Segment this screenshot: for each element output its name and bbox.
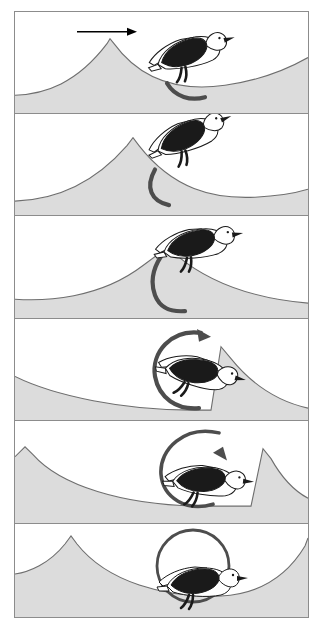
rotation-arrowhead — [213, 447, 227, 461]
panel-5 — [15, 421, 308, 524]
bird-beak — [237, 576, 248, 581]
bird-tail — [162, 480, 174, 486]
panel-3-scene — [15, 216, 308, 318]
bird-tail — [154, 252, 167, 259]
wave-direction-arrow — [77, 28, 137, 36]
panel-3 — [15, 216, 308, 319]
panel-1 — [15, 12, 308, 114]
bird-legs — [174, 67, 189, 83]
bird-eye — [232, 574, 234, 576]
figure-root — [0, 0, 325, 628]
panel-6-scene — [15, 524, 308, 617]
panel-4 — [15, 319, 308, 421]
panel-5-scene — [15, 421, 308, 523]
panel-1-scene — [15, 12, 308, 113]
figure-frame — [14, 11, 309, 618]
rotation-arrowhead — [197, 329, 211, 342]
panel-4-scene — [15, 319, 308, 420]
bird-tail — [157, 586, 169, 591]
panel-2 — [15, 114, 308, 216]
panel-2-scene — [15, 114, 308, 215]
panel-6 — [15, 524, 308, 617]
bird-beak — [220, 114, 232, 122]
